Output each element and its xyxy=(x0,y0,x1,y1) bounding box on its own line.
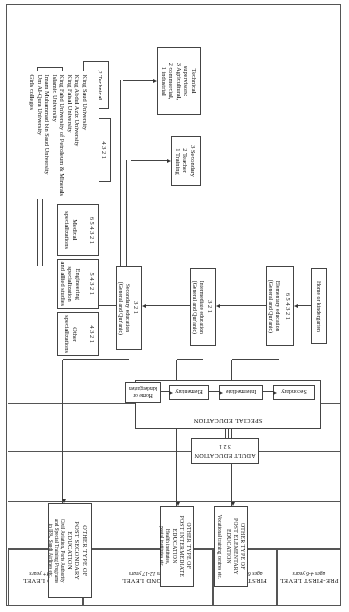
special-education-title: SPECIAL EDUCATION xyxy=(136,419,320,426)
box-title: OTHER TYPE OF POST SECONDARY EDUCATION xyxy=(67,521,90,580)
box-detail-wrap: Health institutes, postal institutes etc… xyxy=(159,507,171,586)
box-years-wrap: 4 3 2 1 xyxy=(99,119,110,181)
box-secondary-teacher-training[interactable]: 3 Secondary 2 Teacher 1 Training xyxy=(171,136,201,186)
box-years-wrap: 6 5 4 3 2 1 xyxy=(86,205,98,255)
box-intermediate-education[interactable]: Intermediate education (General and Qur'… xyxy=(190,268,216,346)
box-label-wrap: Technical supervisors: 3 Agricultural, 2… xyxy=(158,48,200,114)
box-years: 5 4 3 2 1 xyxy=(88,273,96,295)
box-years-wrap: 3 2 1 xyxy=(132,267,141,349)
box-title-wrap: OTHER TYPE OF POST ELEMENTARY EDUCATION xyxy=(227,507,245,586)
connector-intermediate-to-secondary xyxy=(146,305,190,306)
connector-special-home-to-elementary xyxy=(161,392,169,393)
arrow-to-other-post-elementary xyxy=(231,502,235,506)
box-title: OTHER TYPE OF POST INTERMEDIATE EDUCATIO… xyxy=(171,516,191,577)
box-label-wrap: Secondary education (General and Qur'ani… xyxy=(115,267,133,349)
arrow-to-other-post-secondary xyxy=(62,499,66,503)
special-education-stage-secondary[interactable]: Secondary xyxy=(273,385,315,400)
connector-branch-post-intermediate xyxy=(177,359,203,360)
box-home-or-kindergarten[interactable]: Home or kindergarten xyxy=(311,268,327,344)
box-label-wrap: Home or kindergarten xyxy=(312,269,326,343)
education-system-diagram: PRE-FIRST LEVEL ages 4-6 years FIRST LEV… xyxy=(0,0,349,612)
box-label-wrap: Medical specializations xyxy=(56,205,86,255)
connector-special-elementary-to-intermediate xyxy=(209,392,219,393)
box-label: Medical specializations xyxy=(63,211,78,249)
adult-education-title: ADULT EDUCATION xyxy=(192,453,258,460)
box-label: Technical supervisors: 3 Agricultural, 2… xyxy=(160,62,198,99)
box-other-post-intermediate[interactable]: OTHER TYPE OF POST INTERMEDIATE EDUCATIO… xyxy=(160,506,194,587)
connector-to-technical-supervisors xyxy=(123,80,153,81)
box-label-wrap: Intermediate education (General and Qur'… xyxy=(189,269,207,345)
box-technical-supervisors[interactable]: Technical supervisors: 3 Agricultural, 2… xyxy=(157,47,201,115)
stage-label: Secondary xyxy=(274,389,314,395)
box-medical-specializations[interactable]: Medical specializations 6 5 4 3 2 1 xyxy=(57,204,99,256)
box-label-wrap: Other specializations xyxy=(56,313,86,355)
band-separator-3 xyxy=(8,451,341,452)
box-detail-wrap: Vocational training centres etc. xyxy=(213,507,226,586)
level-age: ages 4-6 years xyxy=(293,570,326,577)
adult-education-years: 3 2 1 xyxy=(192,444,258,450)
box-years: 4 3 2 1 xyxy=(88,325,96,343)
arrow-special-elementary-to-intermediate xyxy=(219,391,223,395)
box-label: Home or kindergarten xyxy=(316,280,323,331)
connector-special-intermediate-to-secondary xyxy=(263,392,273,393)
special-education-stage-intermediate[interactable]: Intermediate xyxy=(219,385,263,400)
universities-list-wrap: King Saud University King Abdul Aziz Uni… xyxy=(19,71,99,199)
box-years: 3 2 1 xyxy=(207,301,215,314)
connector-secondary-down-1 xyxy=(126,160,127,266)
connector-secondary-down-2 xyxy=(120,80,121,266)
universities-list: King Saud University King Abdul Aziz Uni… xyxy=(29,74,89,195)
box-other-post-secondary[interactable]: OTHER TYPE OF POST SECONDARY EDUCATION C… xyxy=(48,503,92,598)
connector-elementary-to-intermediate xyxy=(220,305,266,306)
box-label-wrap: Elementary education (General and Qur'an… xyxy=(265,267,284,345)
box-title-wrap: OTHER TYPE OF POST SECONDARY EDUCATION xyxy=(67,504,89,597)
box-title-wrap: OTHER TYPE OF POST INTERMEDIATE EDUCATIO… xyxy=(172,507,191,586)
box-label: Secondary education (General and Qur'ani… xyxy=(117,281,131,334)
box-years-wrap: 3 2 1 xyxy=(206,269,215,345)
box-label: Elementary education (General and Qur'an… xyxy=(268,279,282,332)
box-label: 3 Secondary 2 Teacher 1 Training xyxy=(175,145,198,177)
connector-secondary-to-other-post-secondary xyxy=(62,360,63,503)
box-engineering-specialization[interactable]: Engineering specialization and allied st… xyxy=(57,259,99,309)
box-years-wrap: 4 3 2 1 xyxy=(86,313,98,355)
box-secondary-education[interactable]: Secondary education (General and Qur'ani… xyxy=(116,266,142,350)
arrow-to-secondary-teacher-training xyxy=(167,160,171,164)
level-name: PRE-FIRST LEVEL xyxy=(279,577,338,585)
connector-to-secondary-teacher-training xyxy=(131,160,167,161)
stage-label: Elementary xyxy=(170,389,208,395)
arrow-elementary-to-intermediate xyxy=(216,305,220,309)
box-years: 3 2 1 xyxy=(133,302,141,315)
connector-branch-post-elementary xyxy=(232,359,279,360)
box-label-wrap: Engineering specialization and allied st… xyxy=(56,260,86,308)
box-years-wrap: 6 5 4 3 2 1 xyxy=(283,267,293,345)
arrow-special-intermediate-to-secondary xyxy=(273,391,277,395)
arrow-home-to-elementary xyxy=(294,305,298,309)
box-label-wrap: 3 Secondary 2 Teacher 1 Training xyxy=(172,137,200,185)
special-education-stage-home[interactable]: Home or kindergarten xyxy=(125,382,161,403)
band-separator-2 xyxy=(8,501,341,502)
box-universities[interactable]: King Saud University King Abdul Aziz Uni… xyxy=(19,71,99,199)
box-label: Engineering specialization and allied st… xyxy=(60,262,83,306)
box-detail: Vocational training centres etc. xyxy=(216,514,222,578)
stage-label: Intermediate xyxy=(220,389,262,395)
level-label-pre-first: PRE-FIRST LEVEL ages 4-6 years xyxy=(277,549,341,606)
connector-branch-post-secondary xyxy=(63,359,129,360)
box-years: 6 5 4 3 2 1 xyxy=(284,292,292,319)
box-detail-wrap: Civil Aviation, Ports Authority and Spec… xyxy=(47,504,66,597)
box-adult-education[interactable]: ADULT EDUCATION 3 2 1 xyxy=(191,438,259,464)
box-other-post-elementary[interactable]: OTHER TYPE OF POST ELEMENTARY EDUCATION … xyxy=(214,506,248,587)
box-years: 4 3 2 1 xyxy=(101,141,109,159)
box-years: 6 5 4 3 2 1 xyxy=(88,216,96,243)
box-label: Other specializations xyxy=(63,315,78,353)
arrow-to-other-post-intermediate xyxy=(176,502,180,506)
box-elementary-education[interactable]: Elementary education (General and Qur'an… xyxy=(266,266,294,346)
stage-label: Home or kindergarten xyxy=(126,385,160,399)
box-years-wrap: 5 4 3 2 1 xyxy=(86,260,98,308)
box-detail: Health institutes, postal institutes etc… xyxy=(159,526,171,567)
box-title: OTHER TYPE OF POST ELEMENTARY EDUCATION xyxy=(226,518,246,575)
box-other-specializations[interactable]: Other specializations 4 3 2 1 xyxy=(57,312,99,356)
connector-home-to-elementary xyxy=(298,305,311,306)
special-education-stage-elementary[interactable]: Elementary xyxy=(169,385,209,400)
box-detail: Civil Aviation, Ports Authority and Spec… xyxy=(47,518,65,582)
arrow-to-technical-supervisors xyxy=(153,80,157,84)
arrow-intermediate-to-secondary xyxy=(142,305,146,309)
